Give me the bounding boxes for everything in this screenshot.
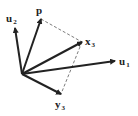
vectors (15, 19, 115, 94)
vector-u2-arrow (15, 28, 22, 74)
vector-y3-arrow (22, 74, 61, 94)
vector-label-y3: y3 (55, 98, 66, 112)
projection-dashed-lines (41, 19, 82, 94)
vector-label-u2: u2 (6, 12, 17, 26)
vector-label-x3: x3 (85, 35, 96, 49)
dashed-line-p-x3 (41, 19, 82, 42)
vector-diagram: u2px3u1y3 (0, 0, 138, 116)
vector-labels: u2px3u1y3 (6, 4, 130, 112)
vector-label-u1: u1 (119, 55, 130, 69)
vector-label-p: p (36, 4, 42, 16)
